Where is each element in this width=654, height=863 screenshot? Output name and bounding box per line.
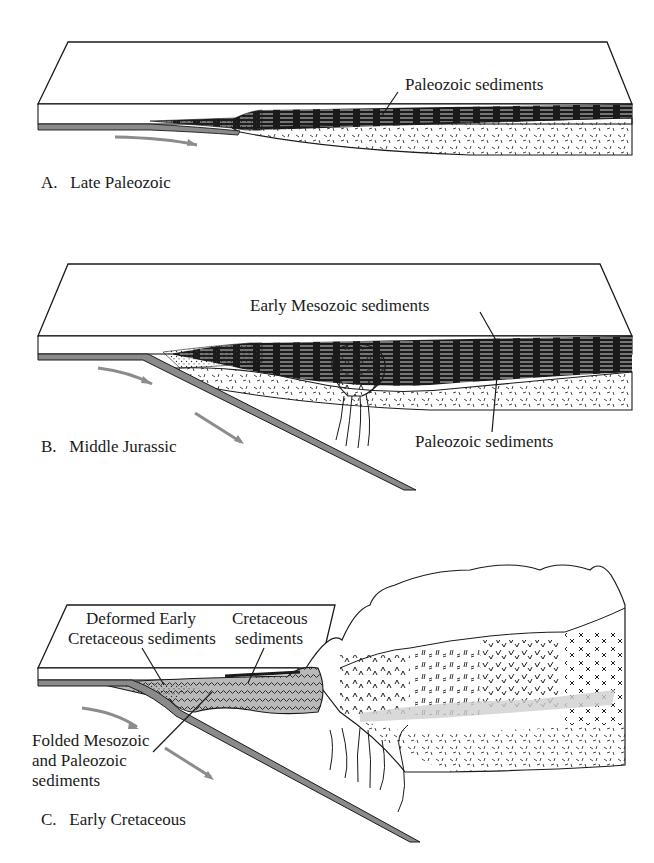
label-deformed-early: Deformed Early bbox=[86, 610, 196, 629]
panel-a-block bbox=[38, 42, 632, 155]
label-folded-mesozoic: Folded Mesozoic bbox=[32, 732, 150, 751]
label-cretaceous-sediments-deformed: Cretaceous sediments bbox=[68, 630, 216, 649]
caption-panel-a: A. Late Paleozoic bbox=[41, 173, 171, 193]
label-cretaceous: Cretaceous bbox=[232, 610, 308, 629]
label-and-paleozoic: and Paleozoic bbox=[32, 752, 127, 771]
label-early-mesozoic-sediments: Early Mesozoic sediments bbox=[250, 297, 429, 316]
caption-panel-c: C. Early Cretaceous bbox=[41, 810, 186, 830]
label-paleozoic-sediments-b: Paleozoic sediments bbox=[415, 433, 553, 452]
panel-c-block bbox=[38, 565, 625, 842]
caption-panel-b: B. Middle Jurassic bbox=[41, 437, 177, 457]
label-cretaceous-sediments: sediments bbox=[235, 630, 303, 649]
label-sediments-folded: sediments bbox=[32, 772, 100, 791]
label-paleozoic-sediments-a: Paleozoic sediments bbox=[405, 76, 543, 95]
